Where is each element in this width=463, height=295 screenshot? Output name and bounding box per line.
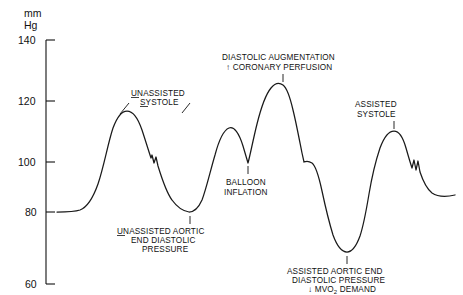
annotation-assisted-aortic-end-diastolic-pressure: ASSISTED AORTIC END DIASTOLIC PRESSURE ↓… [287,256,385,295]
assisted-aedp-line-2: DIASTOLIC PRESSURE [292,276,385,285]
balloon-inflation-line-1: BALLOON [226,178,266,187]
chart-svg: mm Hg 140 120 100 80 60 UNASSISTED SYSTO… [0,0,463,295]
diastolic-augmentation-line-2: ↑ CORONARY PERFUSION [226,63,332,72]
unassisted-aedp-line-2: END DIASTOLIC [131,236,196,245]
assisted-systole-line-2: SYSTOLE [357,110,396,119]
annotation-assisted-systole: ASSISTED SYSTOLE [355,100,397,129]
y-tick-label-60: 60 [25,278,37,290]
assisted-aedp-line-1: ASSISTED AORTIC END [287,267,383,276]
y-axis-unit-label: mm Hg [24,7,42,31]
annotation-unassisted-systole: UNASSISTED SYSTOLE [120,89,190,114]
y-axis-tick-labels: 140 120 100 80 60 [18,34,37,290]
unassisted-systole-leader-right [182,103,190,113]
pressure-waveform-chart: mm Hg 140 120 100 80 60 UNASSISTED SYSTO… [0,0,463,295]
unassisted-systole-leader-left [120,103,129,114]
annotation-balloon-inflation: BALLOON INFLATION [224,166,268,197]
unassisted-systole-line-2: SYSTOLE [140,98,179,107]
annotation-diastolic-augmentation: DIASTOLIC AUGMENTATION ↑ CORONARY PERFUS… [222,53,335,82]
y-tick-label-80: 80 [25,206,37,218]
y-tick-label-100: 100 [18,156,36,168]
assisted-aedp-demand-text: DEMAND [337,285,376,294]
balloon-inflation-line-2: INFLATION [224,188,268,197]
unassisted-aedp-line-3: PRESSURE [142,245,189,254]
annotation-unassisted-aortic-end-diastolic-pressure: UNASSISTED AORTIC END DIASTOLIC PRESSURE [117,216,204,254]
y-tick-label-140: 140 [18,34,36,46]
assisted-aedp-mvo-text: ↓ MVO [308,285,334,294]
assisted-systole-line-1: ASSISTED [355,100,397,109]
unit-label-line-1: mm [24,7,42,19]
unassisted-systole-line-1: UNASSISTED [131,89,185,98]
y-tick-label-120: 120 [18,95,36,107]
unit-label-line-2: Hg [24,19,38,31]
y-axis [46,40,55,284]
diastolic-augmentation-line-1: DIASTOLIC AUGMENTATION [222,53,335,62]
assisted-aedp-line-3: ↓ MVO2 DEMAND [308,285,376,295]
unassisted-aedp-line-1: UNASSISTED AORTIC [117,227,204,236]
